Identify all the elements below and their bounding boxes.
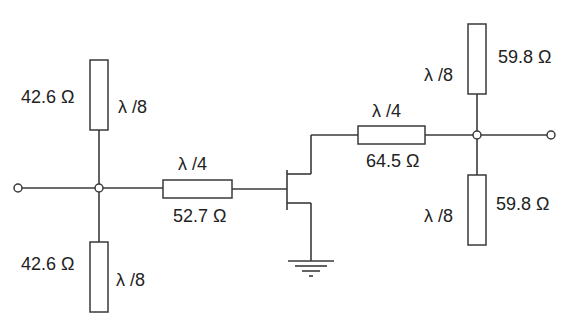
input-series-line-impedance: 52.7 Ω [173,206,227,226]
input-stub-bottom-impedance: 42.6 Ω [21,254,75,274]
output-series-line-impedance: 64.5 Ω [366,151,420,171]
input-series-line [163,180,232,198]
output-stub-bottom-impedance: 59.8 Ω [496,194,550,214]
output-series-line [358,126,425,144]
fet-transistor [287,135,358,261]
output-network: λ /4 64.5 Ω λ /8 59.8 Ω λ /8 59.8 Ω [358,24,555,245]
input-stub-top [90,60,108,130]
output-terminal [547,131,555,139]
input-terminal [14,184,22,192]
output-stub-top-impedance: 59.8 Ω [498,47,552,67]
output-stub-bottom-length: λ /8 [424,206,453,226]
output-series-line-length: λ /4 [372,101,401,121]
output-stub-top [468,24,486,94]
input-stub-top-length: λ /8 [118,97,147,117]
input-stub-top-impedance: 42.6 Ω [21,87,75,107]
output-stub-bottom [468,175,486,245]
input-network: 42.6 Ω λ /8 42.6 Ω λ /8 λ /4 52.7 Ω [14,60,287,312]
output-stub-top-length: λ /8 [424,65,453,85]
input-series-line-length: λ /4 [178,154,207,174]
output-junction [473,131,481,139]
input-stub-bottom [90,242,108,312]
circuit-diagram: 42.6 Ω λ /8 42.6 Ω λ /8 λ /4 52.7 Ω λ [0,0,572,327]
ground-icon [288,261,334,276]
input-junction [95,184,103,192]
input-stub-bottom-length: λ /8 [116,270,145,290]
